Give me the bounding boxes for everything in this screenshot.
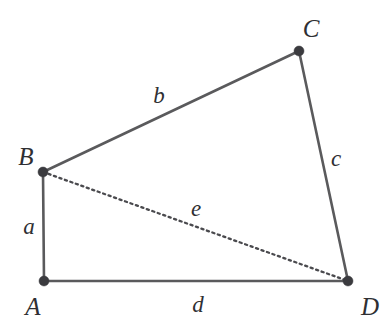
edge-label-d: d (192, 293, 204, 316)
vertex-label-D: D (361, 294, 379, 319)
vertex-dot-A (39, 276, 49, 286)
vertex-dot-D (343, 276, 353, 286)
edge-label-a: a (23, 215, 35, 238)
edge-label-c: c (331, 147, 341, 170)
vertex-label-C: C (303, 16, 320, 41)
edge-label-b: b (153, 84, 165, 107)
vertex-label-A: A (25, 294, 40, 319)
vertex-dot-C (294, 46, 304, 56)
vertex-dot-B (38, 167, 48, 177)
edges-group (43, 51, 348, 281)
edge-e-diagonal-line (43, 172, 348, 281)
geometry-diagram: A B C D a b c d e (0, 0, 388, 333)
edge-label-e: e (191, 197, 201, 220)
vertex-label-B: B (18, 144, 33, 169)
edge-a-line (43, 172, 44, 281)
edge-b-line (43, 51, 299, 172)
figure-canvas (0, 0, 388, 333)
